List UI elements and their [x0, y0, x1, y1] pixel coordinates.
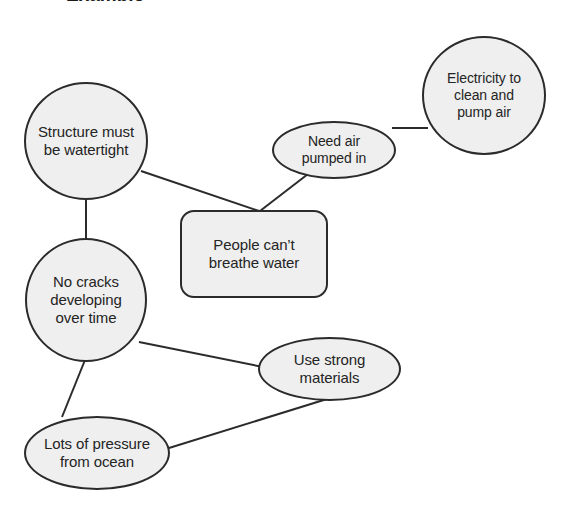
node-need-air-pumped-in-label: Need air pumped in [298, 133, 370, 167]
edge-need-air-pumped-in-to-people-cant-breathe [260, 174, 308, 211]
node-use-strong-materials-label: Use strong materials [290, 351, 370, 387]
node-lots-of-pressure[interactable]: Lots of pressure from ocean [24, 416, 170, 490]
edge-lots-of-pressure-to-use-strong-materials [169, 399, 327, 448]
edge-no-cracks-to-lots-of-pressure [62, 360, 85, 417]
edge-structure-watertight-to-people-cant-breathe [141, 171, 259, 211]
node-electricity-clean-pump-air[interactable]: Electricity to clean and pump air [422, 36, 546, 155]
node-no-cracks[interactable]: No cracks developing over time [25, 238, 147, 362]
page-title-fragment: Example [66, 0, 196, 1]
concept-map-canvas: Example Structure must be watertightNo c… [0, 0, 562, 516]
node-use-strong-materials[interactable]: Use strong materials [258, 337, 401, 401]
node-structure-watertight-label: Structure must be watertight [34, 123, 138, 159]
node-no-cracks-label: No cracks developing over time [46, 273, 126, 327]
node-electricity-clean-pump-air-label: Electricity to clean and pump air [443, 70, 525, 120]
node-need-air-pumped-in[interactable]: Need air pumped in [272, 121, 396, 179]
edge-no-cracks-to-use-strong-materials [139, 342, 263, 367]
node-lots-of-pressure-label: Lots of pressure from ocean [40, 435, 154, 471]
node-structure-watertight[interactable]: Structure must be watertight [24, 82, 148, 200]
node-people-cant-breathe-water[interactable]: People can’t breathe water [180, 210, 328, 298]
node-people-cant-breathe-water-label: People can’t breathe water [205, 236, 303, 272]
